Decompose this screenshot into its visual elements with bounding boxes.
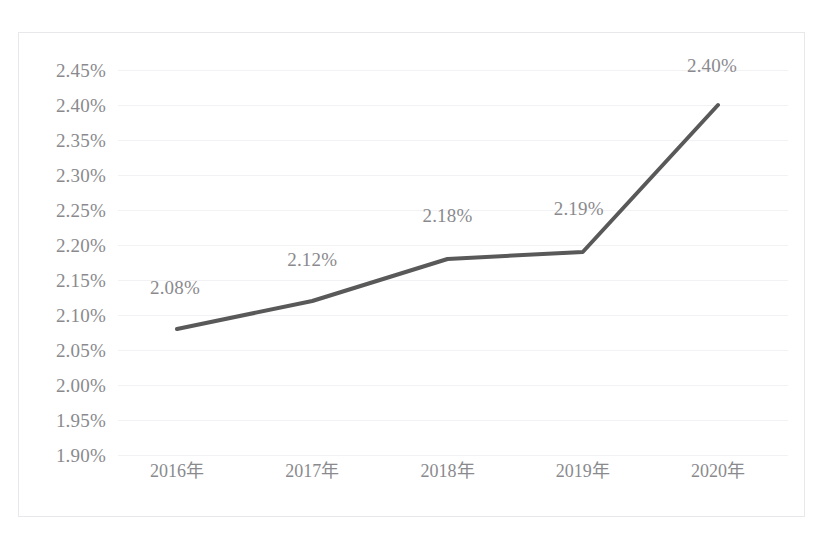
x-axis-tick-label: 2018年	[421, 462, 475, 482]
x-axis-tick-label: 2016年	[150, 462, 204, 482]
data-point-label: 2.18%	[422, 206, 472, 225]
y-axis-tick-label: 2.30%	[14, 166, 106, 185]
y-axis-tick-label: 2.05%	[14, 341, 106, 360]
data-point-label: 2.12%	[287, 250, 337, 269]
data-point-label: 2.19%	[554, 199, 604, 218]
y-axis-tick-label: 2.40%	[14, 96, 106, 115]
line-series	[118, 70, 788, 455]
y-axis-tick-label: 1.95%	[14, 411, 106, 430]
x-axis-tick-label: 2020年	[691, 462, 745, 482]
y-axis-tick-labels: 2.45%2.40%2.35%2.30%2.25%2.20%2.15%2.10%…	[14, 70, 106, 455]
gridline	[118, 455, 788, 456]
y-axis-tick-label: 2.15%	[14, 271, 106, 290]
y-axis-tick-label: 2.25%	[14, 201, 106, 220]
y-axis-tick-label: 2.00%	[14, 376, 106, 395]
y-axis-tick-label: 1.90%	[14, 446, 106, 465]
x-axis-tick-label: 2017年	[285, 462, 339, 482]
y-axis-tick-label: 2.45%	[14, 61, 106, 80]
x-axis-tick-labels: 2016年2017年2018年2019年2020年	[118, 462, 788, 490]
data-point-label: 2.40%	[687, 56, 737, 75]
x-axis-tick-label: 2019年	[556, 462, 610, 482]
chart-figure: 2.45%2.40%2.35%2.30%2.25%2.20%2.15%2.10%…	[0, 0, 822, 544]
y-axis-tick-label: 2.10%	[14, 306, 106, 325]
y-axis-tick-label: 2.35%	[14, 131, 106, 150]
y-axis-tick-label: 2.20%	[14, 236, 106, 255]
data-point-label: 2.08%	[150, 278, 200, 297]
plot-area: 2.08%2.12%2.18%2.19%2.40%	[118, 70, 788, 455]
